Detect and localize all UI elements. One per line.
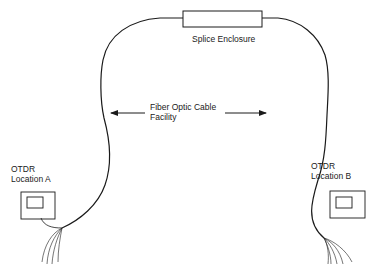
otdr-a-instrument bbox=[21, 192, 62, 228]
cable-facility-label: Fiber Optic Cable Facility bbox=[150, 102, 216, 122]
fiber-cable-left bbox=[62, 18, 183, 228]
otdr-b-label: OTDR Location B bbox=[311, 161, 351, 181]
cable-facility-label-line2: Facility bbox=[150, 112, 216, 122]
otdr-a-fiber-fan bbox=[42, 228, 62, 264]
splice-enclosure-box bbox=[183, 11, 262, 27]
otdr-b-fiber-fan bbox=[324, 238, 352, 264]
fiber-cable-right bbox=[262, 18, 328, 238]
otdr-b-instrument bbox=[330, 191, 365, 218]
otdr-a-label: OTDR Location A bbox=[11, 164, 51, 184]
otdr-b-label-line2: Location B bbox=[311, 171, 351, 181]
otdr-b-label-line1: OTDR bbox=[311, 161, 351, 171]
splice-enclosure-label: Splice Enclosure bbox=[192, 34, 255, 44]
cable-facility-label-line1: Fiber Optic Cable bbox=[150, 102, 216, 112]
otdr-a-label-line2: Location A bbox=[11, 174, 51, 184]
fiber-optic-diagram bbox=[0, 0, 374, 266]
otdr-a-label-line1: OTDR bbox=[11, 164, 51, 174]
